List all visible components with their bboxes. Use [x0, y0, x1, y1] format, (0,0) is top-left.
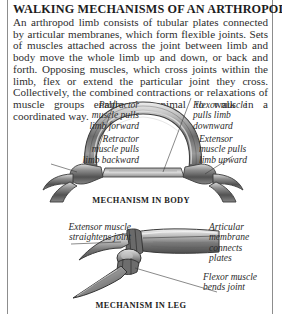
- page-left-rule: [7, 0, 8, 314]
- label-flexor-muscle-leg: Flexor muscle bends joint: [203, 272, 282, 293]
- page-content: WALKING MECHANISMS OF AN ARTHROPOD An ar…: [13, 0, 269, 314]
- document-page: WALKING MECHANISMS OF AN ARTHROPOD An ar…: [0, 0, 282, 314]
- label-extensor-muscle-body: Extensor muscle pulls limb upward: [199, 134, 282, 165]
- label-extensor-muscle-leg: Extensor muscle straightens joint: [13, 222, 131, 243]
- caption-mechanism-in-body: MECHANISM IN BODY: [13, 196, 269, 205]
- page-title: WALKING MECHANISMS OF AN ARTHROPOD: [13, 3, 269, 16]
- figure-mechanism-in-body: Protractor muscle pulls limb forward Ret…: [13, 92, 269, 214]
- caption-mechanism-in-leg: MECHANISM IN LEG: [13, 301, 269, 310]
- label-protractor-muscle: Protractor muscle pulls limb forward: [19, 100, 139, 131]
- label-retractor-muscle: Retractor muscle pulls limb backward: [13, 134, 139, 165]
- label-articular-membrane: Articular membrane connects plates: [209, 222, 282, 263]
- figure-mechanism-in-leg: Extensor muscle straightens joint Articu…: [13, 216, 269, 314]
- label-flexor-muscle-body: Flexor muscle pulls limb downward: [193, 100, 282, 131]
